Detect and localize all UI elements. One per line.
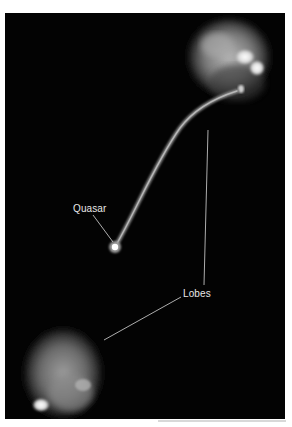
- upper-lobe: [185, 19, 273, 103]
- lobes-label: Lobes: [183, 288, 211, 299]
- leader-lines: [93, 130, 208, 340]
- lower-lobe: [21, 325, 105, 419]
- lobes-leader-line-lower: [104, 297, 181, 340]
- divider-line: [158, 420, 286, 422]
- quasar-point: [109, 241, 121, 253]
- jet: [115, 91, 237, 247]
- quasar-label: Quasar: [73, 203, 106, 214]
- quasar-jet-lobes-image: [5, 13, 285, 419]
- quasar-leader-line: [93, 215, 113, 242]
- astronomy-image-frame: Quasar Lobes: [5, 13, 285, 419]
- lobes-leader-line-upper: [204, 130, 208, 285]
